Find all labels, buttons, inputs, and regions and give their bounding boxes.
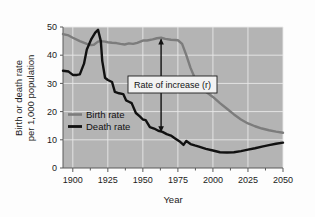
x-tick-label: 1950: [133, 175, 153, 185]
y-tick-label: 0: [52, 163, 57, 173]
x-tick-labels: 1900192519501975200020252050: [63, 175, 293, 185]
chart-figure: 01020304050 1900192519501975200020252050…: [0, 0, 315, 217]
y-tick-labels: 01020304050: [47, 22, 57, 173]
x-tick-label: 1925: [98, 175, 118, 185]
x-tick-label: 2050: [273, 175, 293, 185]
x-axis-title: Year: [163, 194, 182, 205]
callout-text: Rate of increase (r): [134, 80, 211, 90]
y-tick-label: 10: [47, 135, 57, 145]
plot-area-background: [63, 27, 283, 168]
x-tick-label: 1900: [63, 175, 83, 185]
x-tick-label: 1975: [168, 175, 188, 185]
y-tick-label: 30: [47, 79, 57, 89]
x-tick-label: 2025: [238, 175, 258, 185]
y-axis-title-line1: Birth or death rate: [13, 60, 24, 136]
legend-label-death-rate: Death rate: [86, 121, 130, 132]
rate-of-increase-callout: Rate of increase (r): [128, 76, 217, 93]
y-tick-label: 40: [47, 50, 57, 60]
y-tick-label: 20: [47, 107, 57, 117]
legend-label-birth-rate: Birth rate: [86, 109, 125, 120]
birth-death-rate-line-chart: 01020304050 1900192519501975200020252050…: [0, 0, 315, 217]
y-axis-title-line2: per 1,000 population: [25, 55, 36, 142]
x-tick-label: 2000: [203, 175, 223, 185]
y-tick-label: 50: [47, 22, 57, 32]
